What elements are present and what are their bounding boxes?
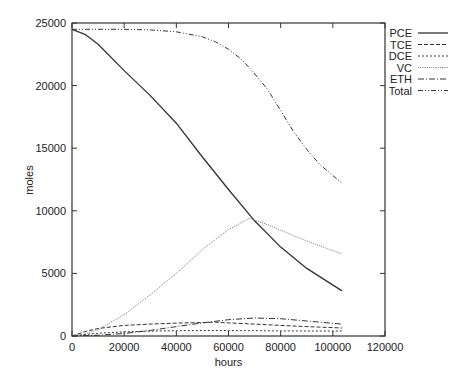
y-axis-ticks: 0500010000150002000025000 (35, 17, 385, 342)
legend-label-eth: ETH (390, 73, 412, 85)
series-eth-line (72, 318, 342, 336)
series-total-line (72, 29, 342, 183)
legend: PCETCEDCEVCETHTotal (389, 27, 448, 97)
series-vc-line (72, 218, 342, 336)
y-tick-label: 10000 (35, 205, 66, 217)
plot-curves (72, 29, 342, 336)
legend-label-dce: DCE (389, 50, 412, 62)
y-tick-label: 20000 (35, 80, 66, 92)
legend-label-vc: VC (397, 62, 412, 74)
series-pce-line (72, 29, 342, 291)
x-tick-label: 80000 (265, 341, 296, 353)
x-tick-label: 60000 (213, 341, 244, 353)
y-tick-label: 5000 (42, 267, 66, 279)
x-axis-label: hours (215, 356, 243, 368)
x-axis-ticks: 020000400006000080000100000120000 (69, 23, 403, 353)
series-tce-line (72, 322, 342, 336)
y-tick-label: 15000 (35, 142, 66, 154)
x-tick-label: 20000 (109, 341, 140, 353)
x-tick-label: 100000 (314, 341, 351, 353)
x-tick-label: 0 (69, 341, 75, 353)
legend-label-pce: PCE (389, 27, 412, 39)
x-tick-label: 40000 (161, 341, 192, 353)
legend-label-total: Total (389, 85, 412, 97)
y-tick-label: 0 (60, 330, 66, 342)
x-tick-label: 120000 (367, 341, 404, 353)
line-chart: 020000400006000080000100000120000 050001… (0, 0, 471, 379)
legend-label-tce: TCE (390, 39, 412, 51)
y-axis-label: moles (23, 165, 35, 195)
y-tick-label: 25000 (35, 17, 66, 29)
series-dce-line (72, 331, 342, 336)
